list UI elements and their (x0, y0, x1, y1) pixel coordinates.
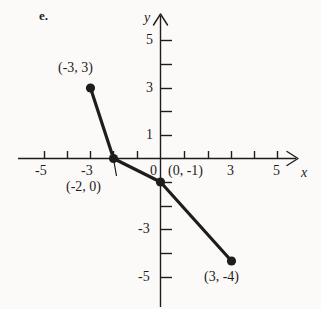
point-label-a: (-3, 3) (58, 61, 93, 75)
data-point-marker (227, 256, 236, 265)
x-tick-label-neg5: -5 (35, 164, 47, 178)
y-tick-label-pos3: 3 (146, 81, 153, 95)
graph-figure: e. y x -5 -3 0 3 5 5 3 1 -3 -5 (-3, 3) (… (0, 0, 321, 309)
data-point-marker (86, 83, 95, 92)
x-axis-name: x (301, 166, 307, 180)
x-tick-label-zero: 0 (150, 164, 157, 178)
point-label-c: (0, -1) (168, 164, 203, 178)
x-tick-label-pos5: 5 (273, 164, 280, 178)
x-tick-label-pos3: 3 (227, 164, 234, 178)
point-label-b: (-2, 0) (66, 180, 101, 194)
y-tick-label-pos1: 1 (146, 128, 153, 142)
x-tick-label-neg3: -3 (81, 164, 93, 178)
data-point-marker (156, 177, 165, 186)
part-label: e. (39, 9, 48, 22)
y-tick-label-pos5: 5 (146, 33, 153, 47)
coordinate-plane-svg (0, 0, 321, 309)
y-tick-label-neg5: -5 (138, 270, 150, 284)
y-tick-label-neg3: -3 (138, 222, 150, 236)
point-label-d: (3, -4) (204, 270, 239, 284)
y-axis-name: y (144, 11, 150, 25)
